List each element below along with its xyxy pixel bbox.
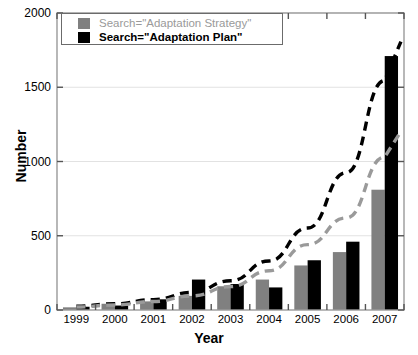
bar <box>256 280 269 310</box>
bar <box>308 260 321 310</box>
legend-swatch-plan <box>78 32 90 43</box>
bar <box>371 190 384 310</box>
bar <box>294 265 307 310</box>
legend-label-plan: Search="Adaptation Plan" <box>99 32 243 43</box>
legend-swatch-strategy <box>78 18 90 29</box>
bar <box>269 287 282 310</box>
bar <box>179 296 192 310</box>
bar <box>217 286 230 310</box>
bar <box>385 56 398 310</box>
legend-item-adaptation-strategy: Search="Adaptation Strategy" <box>78 16 278 30</box>
legend-item-adaptation-plan: Search="Adaptation Plan" <box>78 30 278 44</box>
bar <box>333 252 346 310</box>
chart-container: Number Year 0500100015002000 19992000200… <box>0 0 418 355</box>
chart-legend: Search="Adaptation Strategy" Search="Ada… <box>61 13 283 45</box>
legend-label-strategy: Search="Adaptation Strategy" <box>99 18 251 29</box>
bar <box>346 242 359 310</box>
plot-area <box>0 0 418 355</box>
